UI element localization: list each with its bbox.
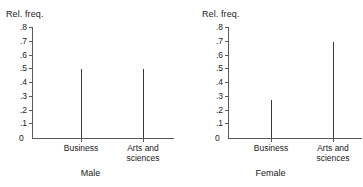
y-tick-5: .5 [225,68,229,69]
y-tick-label-5: .5 [20,63,27,74]
y-tick-label-6: .6 [20,50,27,61]
y-tick-label-8: .8 [216,22,223,33]
x-axis-label-arts-and-sciences: Arts and sciences [303,143,363,163]
y-tick-label-4: .4 [216,77,223,88]
y-tick-1: .1 [225,123,229,124]
y-tick-label-6: .6 [216,50,223,61]
y-tick-label-3: .3 [216,91,223,102]
plot-area-male: 0 .8 .7 .6 .5 .4 .3 .2 .1 [32,28,174,139]
x-axis-label-arts-and-sciences: Arts and sciences [113,143,173,163]
y-tick-label-2: .2 [216,105,223,116]
y-tick-label-1: .1 [216,118,223,129]
x-axis-label-business: Business [241,143,301,153]
y-tick-label-0: 0 [19,133,24,144]
y-tick-5: .5 [29,68,33,69]
plot-area-female: 0 .8 .7 .6 .5 .4 .3 .2 .1 [228,28,362,139]
y-tick-label-2: .2 [20,105,27,116]
y-tick-2: .2 [29,110,33,111]
y-axis-title: Rel. freq. [6,9,44,19]
x-tick-business [81,138,82,142]
panel-caption-male: Male [0,168,181,178]
x-tick-business [271,138,272,142]
y-tick-2: .2 [225,110,229,111]
x-tick-arts-and-sciences [333,138,334,142]
data-spike-business [271,100,272,139]
data-spike-business [81,69,82,138]
y-tick-1: .1 [29,123,33,124]
y-tick-6: .6 [225,55,229,56]
y-axis-title: Rel. freq. [202,9,240,19]
y-tick-8: .8 [29,27,33,28]
y-tick-8: .8 [225,27,229,28]
y-tick-label-7: .7 [216,36,223,47]
panel-caption-female: Female [180,168,361,178]
y-tick-label-4: .4 [20,77,27,88]
y-tick-3: .3 [225,96,229,97]
data-spike-arts-and-sciences [143,69,144,138]
data-spike-arts-and-sciences [333,42,334,138]
chart-panel-female: Rel. freq. 0 .8 .7 .6 .5 .4 .3 .2 [180,0,361,187]
y-tick-7: .7 [29,41,33,42]
y-tick-7: .7 [225,41,229,42]
y-tick-label-7: .7 [20,36,27,47]
x-tick-arts-and-sciences [143,138,144,142]
y-tick-label-5: .5 [216,63,223,74]
x-axis-label-business: Business [51,143,111,153]
y-tick-4: .4 [225,82,229,83]
y-tick-4: .4 [29,82,33,83]
y-tick-label-0: 0 [215,133,220,144]
y-tick-6: .6 [29,55,33,56]
y-tick-label-1: .1 [20,118,27,129]
y-tick-label-8: .8 [20,22,27,33]
y-tick-label-3: .3 [20,91,27,102]
chart-panel-male: Rel. freq. 0 .8 .7 .6 .5 .4 .3 .2 [0,0,181,187]
y-tick-3: .3 [29,96,33,97]
